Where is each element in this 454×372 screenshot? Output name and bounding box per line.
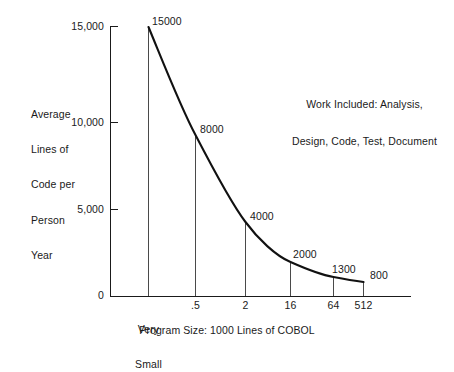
y-axis-title-line-2: Lines of	[31, 144, 75, 156]
data-label-8000: 8000	[200, 124, 224, 136]
data-label-2000: 2000	[293, 249, 317, 261]
x-tick-label-very-small-line-2: Small	[118, 359, 179, 371]
work-included-line-2: Design, Code, Test, Document	[277, 135, 452, 147]
x-tick-label-16: 16	[270, 300, 311, 312]
y-tick-label-0: 0	[48, 290, 104, 302]
y-tick-label-15000: 15,000	[48, 21, 104, 33]
y-axis-title-line-4: Person	[31, 215, 75, 227]
y-axis-title-line-1: Average	[31, 109, 75, 121]
data-label-15000: 15000	[152, 16, 182, 28]
x-tick-label-512: 512	[343, 300, 384, 312]
y-axis-title-line-5: Year	[31, 250, 75, 262]
data-label-1300: 1300	[332, 264, 356, 276]
x-tick-label-2: 2	[225, 300, 266, 312]
work-included-annotation: Work Included: Analysis, Design, Code, T…	[277, 73, 452, 172]
x-axis-title: Program Size: 1000 Lines of COBOL	[0, 325, 454, 337]
y-axis-title: Average Lines of Code per Person Year	[31, 85, 75, 286]
data-label-800: 800	[370, 270, 388, 282]
y-axis-title-line-3: Code per	[31, 179, 75, 191]
data-label-4000: 4000	[250, 211, 274, 223]
work-included-line-1: Work Included: Analysis,	[277, 98, 452, 110]
x-tick-label-point5: .5	[175, 300, 216, 312]
